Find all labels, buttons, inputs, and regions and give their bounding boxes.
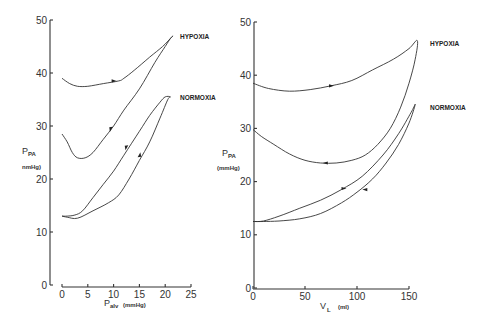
left-curve-hypoxia bbox=[62, 36, 173, 159]
right-series-label-normoxia: NORMOXIA bbox=[430, 104, 466, 111]
left-y-tick-label-20: 20 bbox=[36, 174, 48, 185]
right-y-title-sub: PA bbox=[228, 153, 237, 159]
left-y-tick-label-0: 0 bbox=[41, 280, 47, 291]
left-normoxia-direction-arrow-2 bbox=[138, 152, 142, 157]
right-x-title-unit: (ml) bbox=[338, 304, 349, 310]
left-y-title-sub: PA bbox=[28, 151, 37, 157]
right-x-tick-label-0: 0 bbox=[250, 291, 256, 302]
right-normoxia-direction-arrow-2 bbox=[362, 188, 367, 191]
left-x-title-unit: (mmHg) bbox=[123, 302, 146, 308]
left-y-tick-label-40: 40 bbox=[36, 68, 48, 79]
left-y-tick-label-10: 10 bbox=[36, 227, 48, 238]
right-y-tick-label-10: 10 bbox=[240, 229, 252, 240]
left-x-tick-label-15: 15 bbox=[134, 289, 146, 300]
right-y-tick-label-20: 20 bbox=[240, 176, 252, 187]
right-y-tick-label-30: 30 bbox=[240, 123, 252, 134]
left-y-title-unit: nmHg) bbox=[22, 164, 41, 170]
right-x-axis-title: V L (ml) bbox=[320, 301, 349, 313]
left-x-tick-label-25: 25 bbox=[185, 289, 197, 300]
right-curve-hypoxia bbox=[253, 40, 418, 163]
right-series-label-hypoxia: HYPOXIA bbox=[430, 40, 460, 47]
left-x-title-sub: alv bbox=[110, 303, 119, 309]
left-y-tick-label-50: 50 bbox=[36, 15, 48, 26]
left-x-tick-label-5: 5 bbox=[85, 289, 91, 300]
left-series-label-normoxia: NORMOXIA bbox=[180, 94, 216, 101]
left-curve-normoxia bbox=[62, 96, 170, 218]
right-hypoxia-direction-arrow-2 bbox=[323, 161, 328, 164]
left-chart-pressure-vs-palv: 01020304050 0510152025 HYPOXIA NORMOXIA … bbox=[22, 15, 216, 310]
left-y-tick-label-30: 30 bbox=[36, 121, 48, 132]
right-x-title-main: V bbox=[320, 301, 326, 311]
left-x-tick-label-20: 20 bbox=[160, 289, 172, 300]
right-x-title-sub: L bbox=[327, 307, 331, 313]
right-y-title-unit: (mmHg) bbox=[217, 165, 240, 171]
right-hypoxia-direction-arrow-1 bbox=[329, 84, 334, 87]
right-y-tick-label-50: 50 bbox=[240, 17, 252, 28]
right-y-axis-title: P PA (mmHg) bbox=[217, 148, 240, 171]
left-series-label-hypoxia: HYPOXIA bbox=[180, 33, 210, 40]
right-x-tick-label-150: 150 bbox=[401, 291, 418, 302]
right-x-tick-label-50: 50 bbox=[299, 291, 311, 302]
left-x-tick-label-0: 0 bbox=[59, 289, 65, 300]
left-y-axis-title: P PA nmHg) bbox=[22, 146, 41, 170]
chart-canvas: 01020304050 0510152025 HYPOXIA NORMOXIA … bbox=[0, 0, 484, 330]
right-chart-pressure-vs-volume: 01020304050 050100150 HYPOXIA NORMOXIA P… bbox=[217, 17, 466, 314]
right-x-tick-label-100: 100 bbox=[349, 291, 366, 302]
right-y-tick-label-40: 40 bbox=[240, 70, 252, 81]
